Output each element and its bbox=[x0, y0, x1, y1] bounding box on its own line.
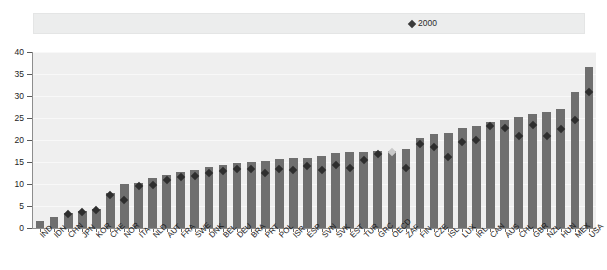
y-axis-tick bbox=[27, 140, 32, 141]
bar-slot[interactable] bbox=[500, 52, 509, 228]
bar-slot[interactable] bbox=[486, 52, 495, 228]
y-axis-tick bbox=[27, 206, 32, 207]
bar[interactable] bbox=[528, 114, 537, 228]
bar-slot[interactable] bbox=[388, 52, 397, 228]
bar[interactable] bbox=[388, 151, 397, 228]
plot-wrapper: 0510152025303540 INDIDNCHNJPNKORCHENORIT… bbox=[0, 44, 607, 270]
y-axis-tick bbox=[27, 184, 32, 185]
bar-slot[interactable] bbox=[528, 52, 537, 228]
bar-slot[interactable] bbox=[92, 52, 101, 228]
bar-slot[interactable] bbox=[585, 52, 594, 228]
legend-item-markers[interactable]: 2000 bbox=[408, 18, 437, 29]
y-axis-tick-label: 10 bbox=[4, 180, 24, 188]
bar-slot[interactable] bbox=[275, 52, 284, 228]
bar-slot[interactable] bbox=[571, 52, 580, 228]
bar-slot[interactable] bbox=[64, 52, 73, 228]
bar-slot[interactable] bbox=[261, 52, 270, 228]
y-axis-tick-label: 5 bbox=[4, 202, 24, 210]
bar[interactable] bbox=[542, 112, 551, 228]
y-axis-tick bbox=[27, 52, 32, 53]
bar-slot[interactable] bbox=[556, 52, 565, 228]
chart-legend: 2010 or latest available 2000 bbox=[33, 13, 585, 34]
y-axis-tick bbox=[27, 228, 32, 229]
y-axis-tick-label: 40 bbox=[4, 48, 24, 56]
bar-slot[interactable] bbox=[373, 52, 382, 228]
bar-slot[interactable] bbox=[78, 52, 87, 228]
bar-slot[interactable] bbox=[233, 52, 242, 228]
bar-slot[interactable] bbox=[205, 52, 214, 228]
bar-slot[interactable] bbox=[359, 52, 368, 228]
cut-off-title bbox=[0, 0, 607, 9]
y-axis-tick-label: 0 bbox=[4, 224, 24, 232]
bar-slot[interactable] bbox=[50, 52, 59, 228]
bar[interactable] bbox=[486, 122, 495, 228]
bar-slot[interactable] bbox=[190, 52, 199, 228]
y-axis-tick bbox=[27, 118, 32, 119]
bar[interactable] bbox=[571, 92, 580, 228]
y-axis-tick bbox=[27, 162, 32, 163]
bar[interactable] bbox=[444, 133, 453, 228]
bar-slot[interactable] bbox=[289, 52, 298, 228]
y-axis-tick bbox=[27, 96, 32, 97]
diamond-marker-icon bbox=[408, 19, 416, 27]
bar-slot[interactable] bbox=[317, 52, 326, 228]
bar-slot[interactable] bbox=[162, 52, 171, 228]
bar-slot[interactable] bbox=[430, 52, 439, 228]
y-axis-tick bbox=[27, 74, 32, 75]
y-axis-tick-label: 25 bbox=[4, 114, 24, 122]
bar-slot[interactable] bbox=[219, 52, 228, 228]
bar[interactable] bbox=[416, 138, 425, 228]
bar[interactable] bbox=[500, 120, 509, 228]
bar-slot[interactable] bbox=[176, 52, 185, 228]
y-axis-tick-label: 15 bbox=[4, 158, 24, 166]
y-axis-tick-label: 30 bbox=[4, 92, 24, 100]
bar-slot[interactable] bbox=[345, 52, 354, 228]
bar[interactable] bbox=[120, 184, 129, 228]
legend-label-markers: 2000 bbox=[418, 18, 437, 29]
bar-slot[interactable] bbox=[402, 52, 411, 228]
chart-figure: 2010 or latest available 2000 0510152025… bbox=[0, 0, 607, 270]
bar-slot[interactable] bbox=[303, 52, 312, 228]
bar-slot[interactable] bbox=[134, 52, 143, 228]
bar-series-layer bbox=[33, 52, 596, 228]
bar-slot[interactable] bbox=[148, 52, 157, 228]
bar-slot[interactable] bbox=[247, 52, 256, 228]
bar[interactable] bbox=[373, 151, 382, 228]
bar-slot[interactable] bbox=[444, 52, 453, 228]
y-axis-tick-label: 20 bbox=[4, 136, 24, 144]
bar-slot[interactable] bbox=[331, 52, 340, 228]
bar-slot[interactable] bbox=[36, 52, 45, 228]
bar-slot[interactable] bbox=[106, 52, 115, 228]
y-axis-tick-label: 35 bbox=[4, 70, 24, 78]
